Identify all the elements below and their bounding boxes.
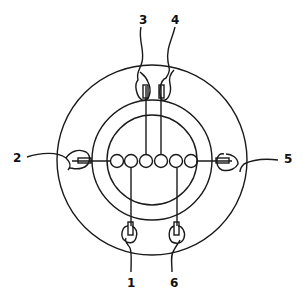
contact-3 [140, 155, 153, 168]
label-1: 1 [127, 277, 135, 289]
contact-4 [155, 155, 168, 168]
label-4: 4 [171, 14, 179, 26]
diagram-drawing [0, 0, 303, 304]
label-2: 2 [13, 152, 21, 164]
terminal-diagram: 1 2 3 4 5 6 [0, 0, 303, 304]
contact-1 [111, 155, 124, 168]
contact-2 [125, 155, 138, 168]
wire-6 [169, 226, 184, 272]
contact-5 [170, 155, 183, 168]
label-6: 6 [170, 277, 178, 289]
wire-2 [27, 150, 89, 170]
contact-row [111, 155, 198, 168]
label-3: 3 [139, 14, 147, 26]
label-5: 5 [284, 153, 292, 165]
wire-1 [122, 226, 137, 272]
contact-6 [185, 155, 198, 168]
wire-4 [160, 27, 175, 100]
